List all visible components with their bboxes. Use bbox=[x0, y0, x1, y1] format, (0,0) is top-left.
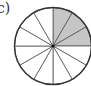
center-dot bbox=[51, 44, 54, 47]
fraction-circle bbox=[0, 0, 91, 86]
